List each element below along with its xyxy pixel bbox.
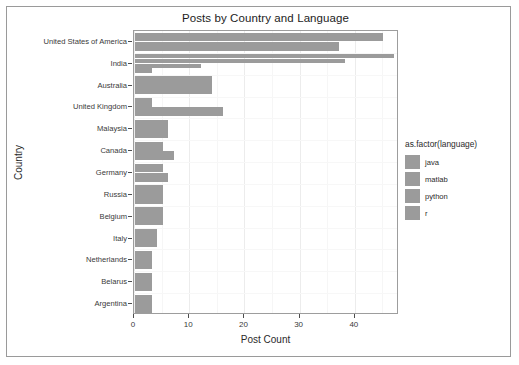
x-axis-tick-mark bbox=[188, 314, 189, 318]
y-gridline-minor bbox=[134, 97, 397, 98]
y-axis-tick-label: Netherlands bbox=[86, 255, 127, 264]
y-axis-tick-label: Germany bbox=[96, 168, 127, 177]
bar bbox=[135, 173, 168, 182]
y-axis-tick-mark bbox=[128, 85, 132, 86]
legend-title: as.factor(language) bbox=[405, 139, 477, 149]
bar bbox=[135, 107, 223, 116]
bar bbox=[135, 68, 152, 72]
y-axis-tick-mark bbox=[128, 172, 132, 173]
legend-swatch bbox=[405, 172, 420, 186]
bar bbox=[135, 98, 152, 107]
legend-item[interactable]: python bbox=[405, 188, 477, 204]
y-gridline-minor bbox=[134, 271, 397, 272]
legend-item-label: r bbox=[425, 209, 428, 218]
x-axis-tick-label: 30 bbox=[294, 320, 303, 329]
legend-swatch bbox=[405, 206, 420, 220]
bar bbox=[135, 207, 163, 225]
y-gridline-minor bbox=[134, 184, 397, 185]
y-axis-tick-mark bbox=[128, 106, 132, 107]
y-axis-tick-mark bbox=[128, 259, 132, 260]
y-axis-tick-mark bbox=[128, 128, 132, 129]
y-axis-tick-mark bbox=[128, 41, 132, 42]
y-axis-tick-label: Russia bbox=[104, 189, 127, 198]
y-axis-tick-label: United States of America bbox=[43, 36, 127, 45]
x-axis-title: Post Count bbox=[133, 334, 398, 345]
legend-item[interactable]: java bbox=[405, 154, 477, 170]
y-axis-tick-mark bbox=[128, 150, 132, 151]
y-gridline-minor bbox=[134, 249, 397, 250]
legend-item[interactable]: r bbox=[405, 205, 477, 221]
legend-item-label: matlab bbox=[425, 175, 448, 184]
y-gridline-minor bbox=[134, 293, 397, 294]
legend-swatch bbox=[405, 155, 420, 169]
y-axis-tick-label: Canada bbox=[100, 146, 127, 155]
y-axis-tick-mark bbox=[128, 281, 132, 282]
y-axis-tick-mark bbox=[128, 63, 132, 64]
legend-items: javamatlabpythonr bbox=[405, 154, 477, 221]
x-axis-tick-label: 0 bbox=[131, 320, 135, 329]
bar bbox=[135, 54, 394, 58]
y-axis-tick-label: Australia bbox=[97, 80, 127, 89]
bar bbox=[135, 120, 168, 138]
bar bbox=[135, 273, 152, 291]
legend: as.factor(language) javamatlabpythonr bbox=[405, 139, 477, 222]
x-axis-tick-label: 40 bbox=[349, 320, 358, 329]
bar bbox=[135, 76, 212, 94]
y-axis-tick-label: Malaysia bbox=[97, 124, 127, 133]
y-axis-tick-mark bbox=[128, 216, 132, 217]
y-axis-tick-label: United Kingdom bbox=[73, 102, 127, 111]
bar bbox=[135, 33, 383, 42]
bar bbox=[135, 229, 157, 247]
legend-swatch bbox=[405, 189, 420, 203]
bar bbox=[135, 295, 152, 313]
y-gridline-minor bbox=[134, 228, 397, 229]
y-axis-tick-label: Italy bbox=[113, 233, 127, 242]
legend-item[interactable]: matlab bbox=[405, 171, 477, 187]
bar bbox=[135, 42, 339, 51]
bar bbox=[135, 251, 152, 269]
chart-title: Posts by Country and Language bbox=[133, 12, 398, 24]
x-axis-tick-mark bbox=[243, 314, 244, 318]
bar bbox=[135, 59, 345, 63]
y-gridline-minor bbox=[134, 118, 397, 119]
y-axis-tick-mark bbox=[128, 303, 132, 304]
plot-area bbox=[133, 30, 398, 314]
y-gridline-minor bbox=[134, 140, 397, 141]
bar-chart: Posts by Country and Language United Sta… bbox=[0, 0, 519, 365]
y-axis-tick-label: Belgium bbox=[100, 211, 127, 220]
y-gridline-minor bbox=[134, 162, 397, 163]
legend-item-label: python bbox=[425, 192, 448, 201]
x-axis-tick-mark bbox=[299, 314, 300, 318]
y-axis-tick-label: Belarus bbox=[101, 277, 127, 286]
bar bbox=[135, 142, 163, 151]
legend-item-label: java bbox=[425, 158, 439, 167]
y-axis-tick-mark bbox=[128, 194, 132, 195]
x-axis-tick-mark bbox=[354, 314, 355, 318]
y-gridline-minor bbox=[134, 206, 397, 207]
chart-screenshot: Posts by Country and Language United Sta… bbox=[0, 0, 519, 365]
bar bbox=[135, 164, 163, 173]
bar bbox=[135, 185, 163, 203]
y-axis-tick-label: India bbox=[111, 58, 127, 67]
y-axis-tick-labels: United States of AmericaIndiaAustraliaUn… bbox=[14, 30, 127, 314]
bar bbox=[135, 64, 201, 68]
x-axis-tick-label: 20 bbox=[239, 320, 248, 329]
bar bbox=[135, 151, 174, 160]
x-axis-tick-label: 10 bbox=[184, 320, 193, 329]
y-axis-tick-label: Argentina bbox=[94, 299, 127, 308]
y-axis-title: Country bbox=[13, 123, 24, 203]
y-axis-tick-mark bbox=[128, 238, 132, 239]
x-axis-tick-mark bbox=[133, 314, 134, 318]
